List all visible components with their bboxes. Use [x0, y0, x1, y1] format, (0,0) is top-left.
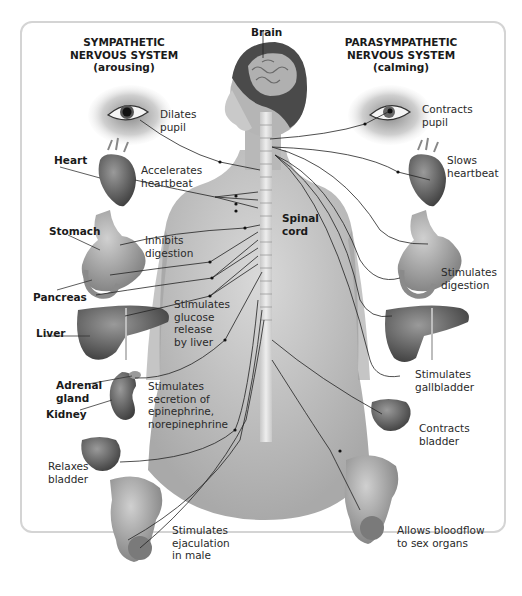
sym-effect-heart: Accelerates heartbeat	[141, 164, 202, 189]
sym-effect-eye: Dilates pupil	[160, 108, 196, 133]
para-effect-heart-line1: Slows	[447, 154, 499, 167]
parasympathetic-header: PARASYMPATHETIC NERVOUS SYSTEM (calming)	[338, 36, 464, 74]
parasympathetic-header-line3: (calming)	[338, 61, 464, 74]
parasympathetic-header-line1: PARASYMPATHETIC	[338, 36, 464, 49]
sym-effect-stomach: Inhibits digestion	[145, 234, 193, 259]
para-effect-eye: Contracts pupil	[422, 103, 473, 128]
para-effect-bladder-line2: bladder	[419, 435, 470, 448]
adrenal-gland-label: Adrenal gland	[56, 379, 102, 404]
stomach-label: Stomach	[49, 225, 101, 238]
right-sex-organs-image	[345, 455, 399, 544]
para-effect-bladder: Contracts bladder	[419, 422, 470, 447]
sym-effect-heart-line1: Accelerates	[141, 164, 202, 177]
sym-effect-bladder-line2: bladder	[48, 473, 88, 486]
para-effect-sex-line1: Allows bloodflow	[397, 524, 485, 537]
para-effect-eye-line2: pupil	[422, 116, 473, 129]
sympathetic-header-line2: NERVOUS SYSTEM	[60, 49, 188, 62]
brain-label: Brain	[251, 26, 282, 39]
spinal-cord-label-line1: Spinal	[282, 212, 319, 225]
sym-effect-stomach-line1: Inhibits	[145, 234, 193, 247]
sym-effect-liver-line1: Stimulates	[174, 298, 230, 311]
spinal-cord-label-line2: cord	[282, 225, 319, 238]
right-heart-image	[409, 138, 446, 206]
left-sex-organs-image	[110, 476, 162, 562]
sympathetic-header-line3: (arousing)	[60, 61, 188, 74]
para-effect-sex-organs: Allows bloodflow to sex organs	[397, 524, 485, 549]
para-effect-stomach: Stimulates digestion	[441, 266, 497, 291]
sym-effect-adrenal: Stimulates secretion of epinephrine, nor…	[148, 380, 228, 430]
adrenal-label-line2: gland	[56, 392, 102, 405]
para-effect-bladder-line1: Contracts	[419, 422, 470, 435]
right-bladder-image	[371, 399, 410, 431]
para-effect-gallbladder: Stimulates gallbladder	[415, 368, 474, 393]
sym-effect-heart-line2: heartbeat	[141, 177, 202, 190]
left-heart-image	[99, 138, 136, 206]
sym-effect-stomach-line2: digestion	[145, 247, 193, 260]
para-effect-sex-line2: to sex organs	[397, 537, 485, 550]
sym-effect-adrenal-line1: Stimulates	[148, 380, 228, 393]
sym-effect-liver-line4: by liver	[174, 336, 230, 349]
sym-effect-sex-organs: Stimulates ejaculation in male	[172, 524, 230, 562]
para-effect-gallbladder-line2: gallbladder	[415, 381, 474, 394]
para-effect-stomach-line2: digestion	[441, 279, 497, 292]
para-effect-gallbladder-line1: Stimulates	[415, 368, 474, 381]
sym-effect-bladder-line1: Relaxes	[48, 460, 88, 473]
right-liver-image	[385, 305, 469, 362]
sym-effect-adrenal-line4: norepinephrine	[148, 418, 228, 431]
kidney-label: Kidney	[46, 408, 87, 421]
para-effect-stomach-line1: Stimulates	[441, 266, 497, 279]
para-effect-heart: Slows heartbeat	[447, 154, 499, 179]
sympathetic-header-line1: SYMPATHETIC	[60, 36, 188, 49]
para-effect-eye-line1: Contracts	[422, 103, 473, 116]
sym-effect-bladder: Relaxes bladder	[48, 460, 88, 485]
pancreas-label: Pancreas	[33, 291, 87, 304]
spinal-cord-label: Spinal cord	[282, 212, 319, 237]
parasympathetic-header-line2: NERVOUS SYSTEM	[338, 49, 464, 62]
sympathetic-header: SYMPATHETIC NERVOUS SYSTEM (arousing)	[60, 36, 188, 74]
sym-effect-adrenal-line2: secretion of	[148, 393, 228, 406]
right-eye-image	[348, 85, 432, 145]
sym-effect-eye-line1: Dilates	[160, 108, 196, 121]
heart-label: Heart	[54, 154, 87, 167]
sym-effect-sex-line1: Stimulates	[172, 524, 230, 537]
sym-effect-liver-line3: release	[174, 323, 230, 336]
sym-effect-eye-line2: pupil	[160, 121, 196, 134]
para-effect-heart-line2: heartbeat	[447, 167, 499, 180]
sym-effect-liver: Stimulates glucose release by liver	[174, 298, 230, 348]
adrenal-label-line1: Adrenal	[56, 379, 102, 392]
left-stomach-image	[82, 210, 146, 296]
sym-effect-sex-line3: in male	[172, 549, 230, 562]
liver-label: Liver	[36, 327, 65, 340]
sym-effect-liver-line2: glucose	[174, 311, 230, 324]
sym-effect-adrenal-line3: epinephrine,	[148, 405, 228, 418]
sym-effect-sex-line2: ejaculation	[172, 537, 230, 550]
